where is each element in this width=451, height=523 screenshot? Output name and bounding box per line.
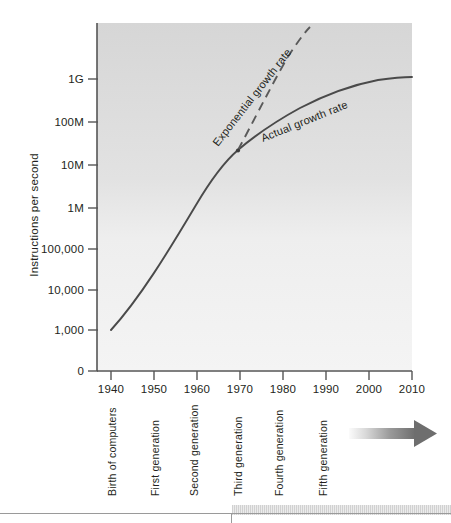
y-axis-title: Instructions per second [28,153,40,277]
y-tick-label: 100M [54,116,84,128]
plot-area-background [97,23,412,370]
generation-label-fifth-generation: Fifth generation [317,420,329,496]
generation-label-first-generation: First generation [149,420,161,496]
y-axis-tick-labels: 1G 100M 10M 1M 100,000 10,000 1,000 0 [41,73,84,377]
generation-labels: Birth of computers First generation Seco… [106,404,329,496]
y-tick-label: 1M [68,202,84,214]
x-tick-label: 2010 [399,383,425,395]
y-tick-label: 100,000 [41,243,84,255]
y-tick-label: 0 [77,365,84,377]
generation-label-fourth-generation: Fourth generation [273,410,285,496]
x-tick-label: 1980 [270,383,296,395]
x-tick-label: 1990 [313,383,339,395]
branch-point-marker [236,148,240,152]
y-tick-label: 10,000 [48,284,84,296]
x-axis-ticks [111,371,412,380]
x-tick-label: 1960 [184,383,210,395]
x-axis-tick-labels: 1940 1950 1960 1970 1980 1990 2000 2010 [98,383,425,395]
generation-label-second-generation: Second generation [188,404,200,496]
x-tick-label: 1950 [141,383,167,395]
generation-label-birth-of-computers: Birth of computers [106,407,118,496]
generation-label-third-generation: Third generation [232,416,244,496]
instructions-per-second-chart: 1G 100M 10M 1M 100,000 10,000 1,000 0 In… [0,0,451,523]
footer-left-box [0,513,232,523]
x-tick-label: 2000 [356,383,382,395]
x-tick-label: 1970 [227,383,253,395]
y-tick-label: 10M [61,159,84,171]
y-tick-label: 1G [68,73,84,85]
y-tick-label: 1,000 [54,324,84,336]
timeline-arrow [349,420,437,447]
chart-figure: 1G 100M 10M 1M 100,000 10,000 1,000 0 In… [0,0,451,523]
x-tick-label: 1940 [98,383,124,395]
